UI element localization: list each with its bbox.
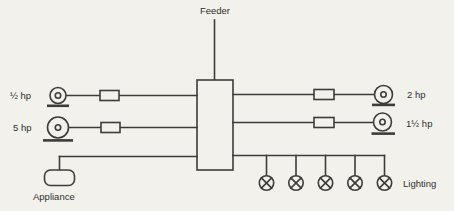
feeder: Feeder — [200, 5, 230, 80]
branch-two-hp-motor: 2 hp — [233, 86, 426, 105]
disconnect-box-icon — [100, 91, 119, 101]
lamp-icon — [318, 156, 332, 191]
disconnect-box-icon — [101, 123, 120, 133]
lighting-label: Lighting — [403, 178, 436, 189]
branch-lighting: Lighting — [233, 156, 436, 191]
appliance-icon — [45, 170, 75, 186]
feeder-label: Feeder — [200, 5, 230, 16]
motor-rating-label: ½ hp — [10, 90, 31, 101]
motor-rating-label: 2 hp — [407, 89, 426, 100]
branch-five-hp-motor: 5 hp — [13, 117, 197, 140]
diagram-canvas: Feeder ½ hp 5 hp Applianc — [0, 0, 454, 211]
branch-appliance: Appliance — [33, 157, 197, 203]
lamp-icon — [348, 156, 362, 191]
motor-icon — [375, 86, 393, 104]
motor-icon — [50, 88, 66, 104]
lamp-icon — [377, 156, 391, 191]
disconnect-box-icon — [314, 118, 334, 128]
distribution-panel-box — [197, 80, 233, 170]
motor-icon — [48, 117, 69, 138]
disconnect-box-icon — [314, 90, 334, 100]
branch-half-hp-motor: ½ hp — [10, 88, 197, 106]
motor-rating-label: 5 hp — [13, 122, 32, 133]
motor-rating-label: 1½ hp — [406, 118, 432, 129]
motor-icon — [374, 113, 392, 131]
appliance-label: Appliance — [33, 191, 75, 202]
lamp-icon — [259, 156, 273, 191]
branch-one-half-hp-motor: 1½ hp — [233, 113, 432, 134]
feeder-distribution-diagram: Feeder ½ hp 5 hp Applianc — [0, 0, 454, 211]
lamp-icon — [289, 156, 303, 191]
